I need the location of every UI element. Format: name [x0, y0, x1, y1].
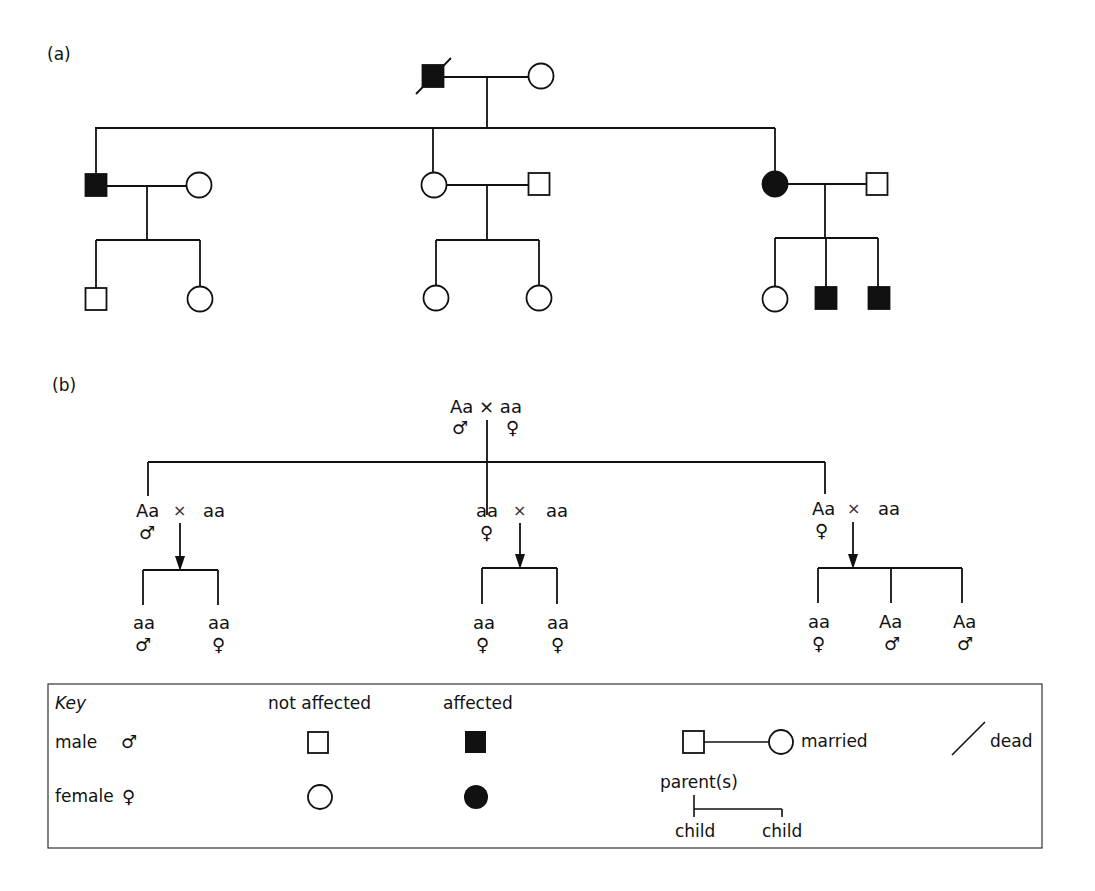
male-symbol-icon: ♂ [884, 635, 900, 653]
unaffected-female-icon [422, 173, 447, 198]
unaffected-female-icon [188, 287, 213, 312]
b-f1-parent2: aa [203, 502, 225, 520]
key-married-label: married [801, 733, 868, 750]
female-symbol-icon: ♀ [812, 635, 825, 653]
unaffected-female-icon [424, 286, 449, 311]
female-symbol-icon: ♀ [476, 636, 489, 654]
key-box [48, 684, 1042, 848]
b-f3-parent1: Aa [812, 500, 835, 518]
female-symbol-icon: ♀ [815, 522, 828, 540]
key-parents-label: parent(s) [660, 774, 738, 791]
male-symbol-icon: ♂ [452, 419, 468, 437]
female-symbol-icon: ♀ [506, 419, 519, 437]
key-affected-male-icon [465, 731, 486, 753]
key-symbols [308, 722, 985, 817]
male-symbol-icon: ♂ [121, 733, 137, 751]
affected-female-icon [763, 172, 788, 197]
key-married-male-icon [683, 731, 704, 753]
unaffected-male-icon [529, 173, 550, 195]
key-female-label: female [55, 788, 114, 805]
b-f1-cross: × [173, 503, 186, 519]
b-f3-cross: × [847, 501, 860, 517]
key-child-label-2: child [762, 823, 802, 840]
b-f3-child1-genotype: aa [808, 613, 830, 631]
affected-male-icon [816, 287, 837, 309]
b-f3-child2-genotype: Aa [879, 613, 902, 631]
b-f2-child1-genotype: aa [473, 614, 495, 632]
unaffected-male-icon [867, 173, 888, 195]
pedigree-canvas [0, 0, 1095, 891]
panel-label-b: (b) [52, 377, 76, 394]
female-symbol-icon: ♀ [212, 636, 225, 654]
unaffected-female-icon [529, 64, 554, 89]
affected-male-icon [86, 174, 107, 196]
key-affected-label: affected [443, 695, 513, 712]
male-symbol-icon: ♂ [135, 636, 151, 654]
female-symbol-icon: ♀ [480, 524, 493, 542]
affected-male-icon [869, 287, 890, 309]
key-not-affected-label: not affected [268, 695, 371, 712]
male-symbol-icon: ♂ [139, 524, 155, 542]
key-unaffected-female-icon [308, 785, 332, 809]
unaffected-female-icon [527, 286, 552, 311]
key-title: Key [55, 695, 86, 712]
b-f2-parent1: aa [476, 502, 498, 520]
panel-label-a: (a) [47, 46, 71, 63]
b-f3-parent2: aa [878, 500, 900, 518]
dead-slash-icon [416, 58, 451, 94]
unaffected-female-icon [187, 173, 212, 198]
male-symbol-icon: ♂ [957, 635, 973, 653]
b-f2-child2-genotype: aa [547, 614, 569, 632]
b-f1-parent1: Aa [136, 502, 159, 520]
b-f2-cross: × [513, 503, 526, 519]
b-f1-child1-genotype: aa [133, 614, 155, 632]
unaffected-male-icon [86, 288, 107, 310]
b-top-cross: Aa × aa [450, 398, 522, 416]
key-male-label: male [55, 734, 97, 751]
b-f1-child2-genotype: aa [208, 614, 230, 632]
key-unaffected-male-icon [308, 732, 328, 753]
key-affected-female-icon [464, 785, 488, 809]
key-dead-label: dead [990, 733, 1032, 750]
key-child-label-1: child [675, 823, 715, 840]
key-married-female-icon [769, 730, 793, 754]
female-symbol-icon: ♀ [122, 788, 135, 806]
key-dead-slash-icon [952, 722, 985, 755]
female-symbol-icon: ♀ [551, 636, 564, 654]
b-f2-parent2: aa [546, 502, 568, 520]
pedigree-a-lines [95, 77, 878, 288]
unaffected-female-icon [763, 287, 788, 312]
b-f3-child3-genotype: Aa [953, 613, 976, 631]
